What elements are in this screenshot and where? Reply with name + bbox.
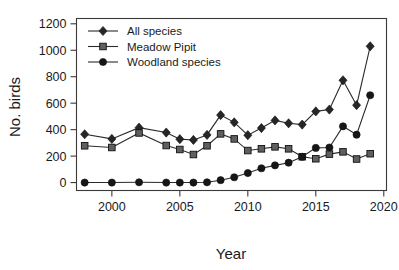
data-point-circle — [190, 179, 197, 186]
data-point-square — [285, 146, 292, 153]
bird-counts-line-chart: 020040060080010001200 200020052010201520… — [0, 0, 399, 270]
data-point-circle — [285, 159, 292, 166]
data-point-circle — [217, 177, 224, 184]
data-point-square — [100, 43, 107, 50]
data-point-square — [353, 156, 360, 163]
x-tick-label: 2015 — [302, 200, 330, 214]
data-point-square — [245, 147, 252, 154]
data-point-square — [204, 143, 211, 150]
data-point-circle — [244, 169, 251, 176]
data-point-square — [272, 144, 279, 151]
data-point-square — [136, 130, 143, 137]
y-tick-label: 0 — [60, 176, 67, 190]
x-axis-title: Year — [216, 245, 246, 262]
y-tick-label: 400 — [46, 123, 67, 137]
data-point-circle — [271, 162, 278, 169]
x-tick-label: 2010 — [234, 200, 262, 214]
data-point-square — [177, 146, 184, 153]
y-tick-label: 200 — [46, 150, 67, 164]
x-tick-label: 2005 — [166, 200, 194, 214]
data-point-circle — [203, 179, 210, 186]
x-tick-label: 2000 — [98, 200, 126, 214]
data-point-square — [109, 144, 116, 151]
data-point-square — [258, 146, 265, 153]
legend-label: Meadow Pipit — [127, 41, 197, 53]
data-point-circle — [299, 153, 306, 160]
data-point-circle — [326, 144, 333, 151]
data-point-circle — [108, 179, 115, 186]
data-point-circle — [367, 92, 374, 99]
y-tick-label: 1000 — [39, 44, 67, 58]
data-point-circle — [99, 58, 106, 65]
y-tick-label: 800 — [46, 70, 67, 84]
data-point-square — [367, 150, 374, 157]
data-point-circle — [258, 165, 265, 172]
data-point-circle — [135, 179, 142, 186]
data-point-circle — [176, 179, 183, 186]
data-point-square — [231, 136, 238, 143]
legend-label: All species — [127, 25, 182, 37]
data-point-circle — [339, 123, 346, 130]
data-point-square — [340, 149, 347, 156]
data-point-square — [81, 143, 88, 150]
data-point-square — [190, 151, 197, 158]
data-point-circle — [312, 144, 319, 151]
data-point-square — [163, 142, 170, 149]
data-point-circle — [231, 174, 238, 181]
data-point-square — [217, 131, 224, 138]
legend-label: Woodland species — [127, 56, 221, 68]
chart-canvas: 020040060080010001200 200020052010201520… — [0, 0, 399, 270]
y-tick-label: 1200 — [39, 17, 67, 31]
data-point-circle — [163, 179, 170, 186]
data-point-circle — [81, 179, 88, 186]
x-tick-label: 2020 — [370, 200, 398, 214]
y-axis-title: No. birds — [6, 77, 23, 137]
data-point-circle — [353, 131, 360, 138]
y-tick-label: 600 — [46, 97, 67, 111]
data-point-square — [326, 151, 333, 158]
data-point-square — [313, 155, 320, 162]
